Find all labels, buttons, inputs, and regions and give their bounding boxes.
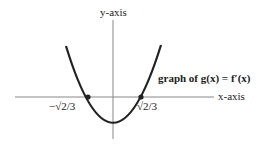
x-axis-label: x-axis xyxy=(218,90,245,102)
y-axis-label: y-axis xyxy=(100,6,127,18)
root-label-positive: √2/3 xyxy=(137,100,157,112)
root-point-positive xyxy=(138,94,143,99)
root-label-negative: −√2/3 xyxy=(49,100,75,112)
root-point-negative xyxy=(85,94,90,99)
curve-label: graph of g(x) = f′(x) xyxy=(158,72,250,84)
